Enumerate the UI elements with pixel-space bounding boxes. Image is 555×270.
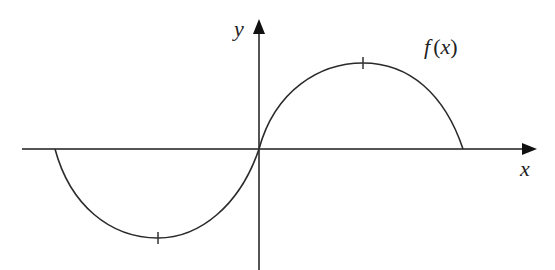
y-axis-label: y	[232, 16, 244, 41]
x-axis-arrow-icon	[522, 143, 537, 155]
curve-label-name: f	[424, 34, 433, 59]
curve-positive-lobe	[259, 63, 463, 149]
y-axis-arrow-icon	[253, 19, 265, 34]
function-graph: y x f(x)	[0, 0, 555, 270]
curve-label-close: )	[450, 34, 457, 59]
curve-label-var: x	[439, 34, 450, 59]
curve-label-open: (	[433, 34, 440, 59]
x-axis-label: x	[519, 156, 530, 181]
curve-negative-lobe	[55, 149, 259, 238]
curve-label: f(x)	[424, 34, 458, 59]
